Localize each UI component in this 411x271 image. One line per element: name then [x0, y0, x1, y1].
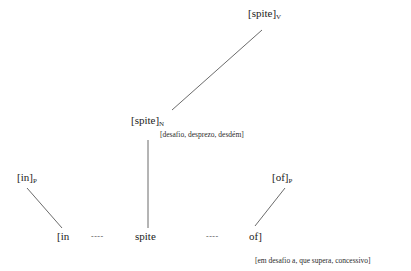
node-mid-subscript: N: [159, 120, 164, 128]
terminal-spite: spite: [135, 231, 156, 242]
node-left-label: [in]: [17, 171, 33, 183]
connector-dashes-right: ----: [206, 233, 219, 241]
syntax-tree-diagram: [spite]V [spite]N [desafio, desprezo, de…: [0, 0, 411, 271]
gloss-mid-node: [desafio, desprezo, desdém]: [160, 131, 244, 139]
node-left-subscript: P: [33, 177, 37, 185]
node-left-in-p: [in]P: [17, 172, 37, 183]
gloss-bottom-idiom: [em desafio a, que supera, concessivo]: [255, 257, 371, 265]
edge-root-to-mid: [172, 30, 262, 110]
edge-left-to-in: [27, 188, 62, 228]
node-right-label: [of]: [272, 171, 289, 183]
node-root-label: [spite]: [248, 7, 276, 19]
node-mid-label: [spite]: [131, 114, 159, 126]
node-right-subscript: P: [289, 177, 293, 185]
node-root-spite-v: [spite]V: [248, 8, 281, 19]
terminal-of: of]: [249, 231, 262, 242]
terminal-in: [in: [57, 231, 69, 242]
node-mid-spite-n: [spite]N: [131, 115, 164, 126]
node-right-of-p: [of]P: [272, 172, 293, 183]
edge-right-to-of: [255, 188, 285, 226]
node-root-subscript: V: [276, 13, 281, 21]
connector-dashes-left: ----: [91, 233, 104, 241]
